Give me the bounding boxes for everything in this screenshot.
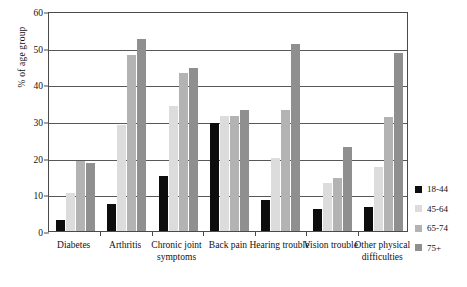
bar (117, 125, 126, 231)
bar-group (56, 13, 96, 231)
legend-label: 18-44 (427, 184, 448, 194)
bar (374, 167, 383, 231)
x-tick-mark (203, 231, 204, 236)
bar-group (261, 13, 301, 231)
plot-area: 0102030405060 (48, 12, 408, 232)
bar-group (159, 13, 199, 231)
bar (230, 116, 239, 232)
bar (169, 106, 178, 231)
bar (56, 220, 65, 231)
x-axis-label: Other physical difficulties (347, 240, 417, 263)
legend-label: 45-64 (427, 204, 448, 214)
x-tick-mark (100, 231, 101, 236)
y-axis-title: % of age group (17, 0, 27, 127)
legend-swatch-icon (415, 244, 422, 251)
legend-swatch-icon (415, 205, 422, 212)
bar (364, 207, 373, 231)
bar (189, 68, 198, 231)
bar (76, 161, 85, 231)
bar (86, 163, 95, 231)
bar (210, 123, 219, 231)
bar (137, 39, 146, 232)
bar-group (107, 13, 147, 231)
bar (240, 110, 249, 231)
bar (66, 193, 75, 232)
legend-item[interactable]: 75+ (415, 243, 448, 253)
bar-series-area (49, 13, 407, 231)
legend: 18-4445-6465-7475+ (415, 184, 448, 253)
bar (313, 209, 322, 231)
bar (271, 158, 280, 231)
y-tick-label: 0 (38, 228, 49, 238)
bar-group (313, 13, 353, 231)
bar (281, 110, 290, 231)
bar-group (364, 13, 404, 231)
y-tick-label: 30 (34, 118, 50, 128)
x-tick-mark (358, 231, 359, 236)
bar-group (210, 13, 250, 231)
x-tick-mark (152, 231, 153, 236)
bar (261, 200, 270, 231)
y-tick-label: 40 (34, 81, 50, 91)
x-tick-mark (306, 231, 307, 236)
bar (343, 147, 352, 231)
y-tick-label: 20 (34, 155, 50, 165)
bar (323, 183, 332, 231)
y-tick-label: 10 (34, 191, 50, 201)
chart-container: % of age group 0102030405060 DiabetesArt… (0, 0, 467, 287)
legend-item[interactable]: 65-74 (415, 223, 448, 233)
y-tick-label: 50 (34, 45, 50, 55)
bar (333, 178, 342, 231)
bar (291, 44, 300, 231)
bar (107, 204, 116, 232)
legend-swatch-icon (415, 225, 422, 232)
bar (179, 73, 188, 231)
legend-item[interactable]: 18-44 (415, 184, 448, 194)
bar (159, 176, 168, 231)
y-tick-label: 60 (34, 8, 50, 18)
legend-swatch-icon (415, 186, 422, 193)
bar (220, 116, 229, 232)
legend-label: 75+ (427, 243, 441, 253)
legend-label: 65-74 (427, 223, 448, 233)
bar (127, 55, 136, 231)
legend-item[interactable]: 45-64 (415, 204, 448, 214)
x-tick-mark (255, 231, 256, 236)
bar (384, 117, 393, 231)
bar (394, 53, 403, 231)
